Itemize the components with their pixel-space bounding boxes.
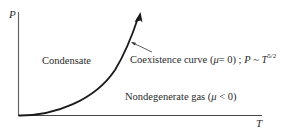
exponent: 5/2 [267, 52, 276, 60]
gas-name: Nondegenerate gas ( [125, 91, 211, 102]
coexistence-curve-label: Coexistence curve (μ= 0) ; P ~ T5/2 [130, 53, 276, 66]
curve-arrowhead-icon [135, 12, 143, 23]
coexistence-curve [19, 18, 139, 116]
curve-condition: = 0) ; [219, 54, 244, 65]
gas-region-label: Nondegenerate gas (μ < 0) [125, 92, 237, 103]
curve-name: Coexistence curve ( [130, 54, 213, 65]
x-axis-label: T [256, 118, 262, 129]
proportional-symbol: ~ [251, 54, 262, 65]
gas-condition: < 0) [217, 91, 237, 102]
condensate-region-label: Condensate [42, 56, 91, 67]
y-axis-label: P [9, 9, 16, 20]
leader-arrowhead-icon [131, 42, 136, 46]
